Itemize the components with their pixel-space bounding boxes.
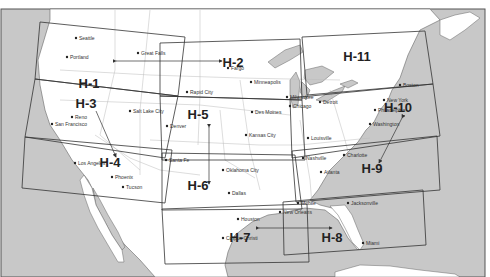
city-label: Charlotte	[347, 152, 368, 158]
city-dot-icon	[320, 171, 322, 173]
city-dot-icon	[319, 101, 321, 103]
city-label: Milwaukee	[290, 94, 314, 100]
city-dot-icon	[399, 84, 401, 86]
city-charlotte: Charlotte	[343, 152, 368, 158]
city-dot-icon	[71, 116, 73, 118]
city-label: Phoenix	[115, 174, 134, 180]
city-dot-icon	[362, 242, 364, 244]
city-des-moines: Des Moines	[251, 109, 282, 115]
city-label: Oklahoma City	[226, 167, 259, 173]
city-dot-icon	[75, 37, 77, 39]
chart-label-h-11: H-11	[343, 49, 370, 64]
city-washington: Washington	[369, 121, 400, 127]
city-dot-icon	[186, 91, 188, 93]
chart-label-h-10: H-10	[384, 100, 412, 115]
city-portland: Portland	[66, 54, 89, 60]
city-label: Washington	[373, 121, 399, 127]
city-louisville: Louisville	[307, 135, 332, 141]
city-label: Mobile	[301, 200, 316, 206]
city-label: Nashville	[306, 155, 327, 161]
city-dot-icon	[369, 123, 371, 125]
chart-label-h-9: H-9	[362, 161, 383, 176]
ifr-enroute-high-chart-index-map: SeattleGreat FallsPortlandFargoMinneapol…	[0, 0, 490, 277]
city-dot-icon	[228, 192, 230, 194]
city-dot-icon	[374, 109, 376, 111]
city-dot-icon	[302, 157, 304, 159]
city-label: Houston	[241, 216, 260, 222]
city-rapid-city: Rapid City	[186, 89, 214, 95]
city-dot-icon	[222, 169, 224, 171]
city-dot-icon	[74, 162, 76, 164]
chart-label-h-2: H-2	[223, 55, 244, 70]
city-dot-icon	[165, 159, 167, 161]
city-label: San Francisco	[55, 121, 87, 127]
city-label: Dallas	[232, 190, 246, 196]
city-label: New Orleans	[283, 209, 312, 215]
chart-label-h-8: H-8	[322, 230, 343, 245]
city-phoenix: Phoenix	[111, 174, 134, 180]
city-san-francisco: San Francisco	[51, 121, 87, 127]
city-label: Chicago	[293, 103, 312, 109]
city-label: Seattle	[79, 35, 95, 41]
city-dot-icon	[297, 202, 299, 204]
city-label: Louisville	[311, 135, 332, 141]
city-label: Great Falls	[141, 50, 166, 56]
city-dot-icon	[222, 237, 224, 239]
city-new-orleans: New Orleans	[279, 209, 313, 215]
city-label: Santa Fe	[169, 157, 190, 163]
city-dot-icon	[279, 211, 281, 213]
city-minneapolis: Minneapolis	[250, 79, 281, 85]
city-dot-icon	[166, 125, 168, 127]
city-dot-icon	[251, 111, 253, 113]
city-dot-icon	[122, 186, 124, 188]
city-salt-lake-city: Salt Lake City	[129, 108, 165, 114]
chart-label-h-3: H-3	[76, 96, 97, 111]
city-label: Reno	[75, 114, 87, 120]
city-label: Des Moines	[255, 109, 282, 115]
city-santa-fe: Santa Fe	[165, 157, 190, 163]
city-oklahoma-city: Oklahoma City	[222, 167, 259, 173]
city-kansas-city: Kansas City	[245, 132, 276, 138]
city-dot-icon	[66, 56, 68, 58]
chart-label-h-6: H-6	[188, 178, 209, 193]
city-dot-icon	[245, 134, 247, 136]
city-dot-icon	[289, 105, 291, 107]
city-dot-icon	[237, 218, 239, 220]
city-label: Detroit	[323, 99, 338, 105]
city-dot-icon	[286, 96, 288, 98]
chart-label-h-1: H-1	[79, 76, 100, 91]
city-label: Kansas City	[249, 132, 276, 138]
city-great-falls: Great Falls	[137, 50, 166, 56]
city-dot-icon	[137, 52, 139, 54]
city-dot-icon	[307, 137, 309, 139]
city-label: Atlanta	[324, 169, 340, 175]
city-dot-icon	[347, 202, 349, 204]
city-chicago: Chicago	[289, 103, 312, 109]
city-dot-icon	[343, 154, 345, 156]
city-houston: Houston	[237, 216, 260, 222]
chart-label-h-4: H-4	[100, 155, 122, 170]
chart-label-h-7: H-7	[230, 230, 251, 245]
city-dot-icon	[250, 81, 252, 83]
chart-label-h-5: H-5	[188, 107, 209, 122]
city-label: Denver	[170, 123, 186, 129]
city-jacksonville: Jacksonville	[347, 200, 378, 206]
city-label: Minneapolis	[254, 79, 281, 85]
city-nashville: Nashville	[302, 155, 327, 161]
city-label: Portland	[70, 54, 89, 60]
city-dot-icon	[51, 123, 53, 125]
city-dot-icon	[129, 110, 131, 112]
city-label: Rapid City	[190, 89, 214, 95]
city-milwaukee: Milwaukee	[286, 94, 314, 100]
city-label: Miami	[366, 240, 379, 246]
city-dot-icon	[111, 176, 113, 178]
city-label: Boston	[403, 82, 419, 88]
city-label: Jacksonville	[351, 200, 378, 206]
city-label: Tucson	[126, 184, 142, 190]
city-label: Salt Lake City	[133, 108, 164, 114]
